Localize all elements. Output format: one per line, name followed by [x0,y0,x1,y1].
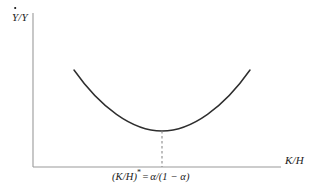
y-axis-label: Y/Y [12,11,28,23]
growth-rate-curve [74,70,250,131]
y-axis-numerator: Y [12,11,18,23]
y-dot-variable: Y [12,11,18,23]
annotation-lhs: (K/H) [112,171,137,182]
x-axis-label: K/H [285,154,304,166]
plot-canvas [0,0,325,191]
y-axis-denominator: Y [22,11,28,23]
dot-accent-icon [14,7,16,9]
annotation-rhs: α/(1 − α) [150,171,189,182]
annotation-equals: = [141,171,150,182]
growth-rate-figure: Y/Y K/H (K/H)*=α/(1 − α) [0,0,325,191]
minimum-point-annotation: (K/H)*=α/(1 − α) [112,168,190,182]
